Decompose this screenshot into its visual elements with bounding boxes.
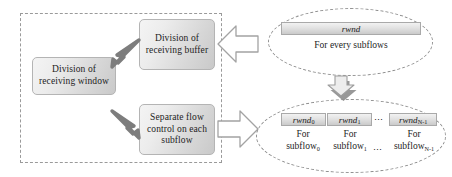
chip-rwnd-1-sub: 1 — [358, 118, 361, 125]
chip-rwnd-n-minus-1[interactable]: rwndN-1 — [389, 113, 437, 126]
box-recv-buffer-line1: Division of — [144, 33, 210, 45]
box-flow-control-line3: subflow — [145, 135, 209, 147]
caption-for-every-subflows: For every subflows — [281, 40, 421, 52]
box-division-receiving-buffer[interactable]: Division of receiving buffer — [139, 19, 215, 70]
caption-subflow-1-base: subflow — [333, 141, 364, 151]
caption-subflow-1-sub: 1 — [364, 145, 367, 152]
box-recv-window-line1: Division of — [37, 64, 111, 76]
caption-subflow-n-line1: For — [386, 129, 442, 141]
block-arrow-right-lower-icon — [215, 106, 261, 152]
box-recv-window-line2: receiving window — [37, 76, 111, 88]
caption-subflow-0-line1: For — [277, 129, 329, 141]
diagram-canvas: Division of receiving window Division of… — [0, 0, 452, 177]
caption-subflow-0-base: subflow — [286, 141, 317, 151]
caption-subflow-0-sub: 0 — [317, 145, 320, 152]
block-arrow-down-icon — [322, 74, 362, 102]
chip-rwnd-1[interactable]: rwnd1 — [327, 113, 372, 126]
caption-subflow-n-sub: N-1 — [425, 145, 435, 152]
caption-for-subflow-1: For subflow1 — [324, 129, 376, 153]
box-recv-buffer-line2: receiving buffer — [144, 45, 210, 57]
box-flow-control-line1: Separate flow — [145, 112, 209, 124]
caption-ellipsis: ⋯ — [373, 145, 383, 155]
chip-rwnd-n-sub: N-1 — [418, 118, 428, 125]
arrow-window-to-flowcontrol-icon — [106, 106, 146, 140]
chip-rwnd-0-base: rwnd — [293, 115, 312, 125]
box-division-receiving-window[interactable]: Division of receiving window — [32, 57, 116, 95]
chip-rwnd-label: rwnd — [342, 24, 361, 34]
block-arrow-left-upper-icon — [215, 21, 261, 67]
chip-ellipsis: ⋯ — [374, 115, 384, 125]
chip-rwnd-0[interactable]: rwnd0 — [281, 113, 326, 126]
caption-for-subflow-n-minus-1: For subflowN-1 — [386, 129, 442, 153]
chip-rwnd-1-base: rwnd — [339, 115, 358, 125]
chip-rwnd-n-base: rwnd — [399, 115, 418, 125]
caption-for-subflow-0: For subflow0 — [277, 129, 329, 153]
caption-subflow-n-base: subflow — [394, 141, 425, 151]
chip-rwnd-0-sub: 0 — [312, 118, 315, 125]
box-separate-flow-control[interactable]: Separate flow control on each subflow — [139, 104, 215, 155]
chip-rwnd[interactable]: rwnd — [281, 22, 421, 35]
arrow-buffer-to-window-icon — [105, 36, 145, 70]
box-flow-control-line2: control on each — [145, 124, 209, 136]
caption-subflow-1-line1: For — [324, 129, 376, 141]
